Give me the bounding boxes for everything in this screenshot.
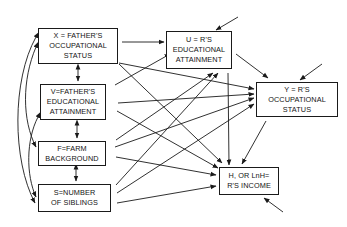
arrow-x-to-h <box>119 64 222 163</box>
corr-x-f <box>26 47 37 147</box>
arrow-v-to-y <box>118 94 254 103</box>
node-s-line-2: OF SIBLINGS <box>51 198 98 208</box>
arrow-y-to-h <box>242 121 266 164</box>
node-v-line-3: ATTAINMENT <box>50 107 97 117</box>
node-x-fathers-occupational-status: X = FATHER'S OCCUPATIONAL STATUS <box>38 28 118 64</box>
node-x-line-3: STATUS <box>64 51 92 61</box>
arrow-f-to-y <box>115 98 254 147</box>
arrow-v-to-u <box>115 54 170 85</box>
node-h-line-1: H, OR LnH= <box>229 171 270 181</box>
arrow-s-to-h <box>117 186 216 203</box>
disturbance-u <box>216 17 238 30</box>
node-h-income: H, OR LnH= R'S INCOME <box>219 167 279 195</box>
disturbance-y <box>300 64 322 80</box>
node-s-line-1: S=NUMBER <box>54 188 96 198</box>
node-u-line-2: EDUCATIONAL <box>173 45 225 55</box>
node-v-line-1: V=FATHER'S <box>51 87 96 97</box>
node-f-line-2: BACKGROUND <box>45 154 98 164</box>
node-v-fathers-educational-attainment: V=FATHER'S EDUCATIONAL ATTAINMENT <box>40 84 106 120</box>
node-u-line-3: ATTAINMENT <box>176 55 223 65</box>
disturbance-h <box>264 198 283 212</box>
arrow-u-to-h <box>228 73 229 165</box>
corr-v-s <box>29 117 38 197</box>
arrow-u-to-y <box>236 54 268 78</box>
node-y-line-2: OCCUPATIONAL <box>268 95 326 105</box>
node-x-line-1: X = FATHER'S <box>54 31 103 41</box>
node-y-occupational-status: Y = R'S OCCUPATIONAL STATUS <box>256 82 338 117</box>
node-u-educational-attainment: U = R'S EDUCATIONAL ATTAINMENT <box>166 31 232 69</box>
node-f-line-1: F=FARM <box>57 144 87 154</box>
node-y-line-3: STATUS <box>283 105 311 115</box>
node-s-number-of-siblings: S=NUMBER OF SIBLINGS <box>38 184 111 212</box>
arrow-f-to-h <box>116 157 216 175</box>
node-h-line-2: R'S INCOME <box>227 181 271 191</box>
node-v-line-2: EDUCATIONAL <box>47 97 99 107</box>
node-x-line-2: OCCUPATIONAL <box>49 41 107 51</box>
node-u-line-1: U = R'S <box>186 35 212 45</box>
node-f-farm-background: F=FARM BACKGROUND <box>38 141 106 166</box>
node-y-line-1: Y = R'S <box>284 85 309 95</box>
